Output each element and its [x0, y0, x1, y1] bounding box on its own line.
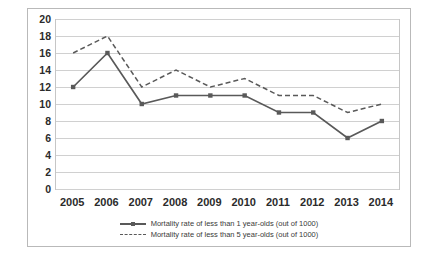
x-axis-tick-label: 2009 [197, 196, 221, 208]
legend-label-under-1: Mortality rate of less than 1 year-olds … [151, 219, 319, 228]
legend-item-under-1: Mortality rate of less than 1 year-olds … [27, 219, 411, 228]
x-axis-tick-label: 2012 [300, 196, 324, 208]
y-axis-tick-label: 4 [45, 149, 51, 161]
y-axis-tick-label: 0 [45, 183, 51, 195]
chart-container: 02468101214161820 2005200620072008200920… [27, 8, 411, 247]
data-point-marker [380, 119, 384, 123]
legend-label-under-5: Mortality rate of less than 5 year-olds … [151, 230, 319, 239]
data-point-marker [140, 102, 144, 106]
y-axis-tick-label: 8 [45, 115, 51, 127]
y-axis-tick-label: 14 [39, 64, 51, 76]
chart-legend: Mortality rate of less than 1 year-olds … [27, 217, 411, 241]
data-point-marker [345, 136, 349, 140]
legend-item-under-5: Mortality rate of less than 5 year-olds … [27, 230, 411, 239]
data-point-marker [311, 110, 315, 114]
x-axis-labels: 2005200620072008200920102011201220132014 [55, 196, 400, 214]
gridline [56, 189, 399, 190]
x-axis-tick-label: 2006 [94, 196, 118, 208]
x-axis-tick-label: 2010 [231, 196, 255, 208]
data-point-marker [277, 110, 281, 114]
x-axis-tick-label: 2008 [163, 196, 187, 208]
y-axis-tick-label: 16 [39, 47, 51, 59]
y-axis-tick-label: 10 [39, 98, 51, 110]
legend-dashed-line-icon [120, 230, 146, 239]
data-point-marker [71, 85, 75, 89]
series-line-1 [73, 36, 382, 113]
x-axis-tick-label: 2011 [266, 196, 290, 208]
data-point-marker [105, 51, 109, 55]
series-line-0 [73, 53, 382, 138]
data-point-marker [174, 93, 178, 97]
x-axis-tick-label: 2005 [60, 196, 84, 208]
legend-solid-line-icon [120, 219, 146, 228]
y-axis-tick-label: 12 [39, 81, 51, 93]
x-axis-tick-label: 2007 [129, 196, 153, 208]
y-axis-tick-label: 6 [45, 132, 51, 144]
y-axis-tick-label: 20 [39, 13, 51, 25]
y-axis-tick-label: 2 [45, 166, 51, 178]
series-lines [56, 19, 399, 189]
x-axis-tick-label: 2014 [369, 196, 393, 208]
y-axis-tick-label: 18 [39, 30, 51, 42]
data-point-marker [208, 93, 212, 97]
plot-area: 02468101214161820 [55, 19, 400, 190]
x-axis-tick-label: 2013 [334, 196, 358, 208]
data-point-marker [242, 93, 246, 97]
